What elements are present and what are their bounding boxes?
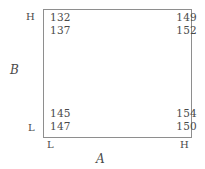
y-axis-tick-low: L [28,122,35,134]
observation-value: 132 [50,11,71,24]
observation-value: 152 [176,24,197,37]
y-axis-tick-high: H [26,11,35,23]
observation-value: 145 [50,107,71,120]
factorial-design-plot: 132 137 149 152 145 147 154 150 H L L H … [0,0,205,169]
y-axis-title: B [10,63,19,77]
observation-value: 149 [176,11,197,24]
corner-values-low-a-high-b: 132 137 [50,11,71,37]
observation-value: 154 [176,107,197,120]
corner-values-low-a-low-b: 145 147 [50,107,71,133]
corner-values-high-a-low-b: 154 150 [176,107,197,133]
observation-value: 150 [176,120,197,133]
x-axis-tick-high: H [180,139,189,151]
x-axis-title: A [96,152,105,166]
corner-values-high-a-high-b: 149 152 [176,11,197,37]
observation-value: 147 [50,120,71,133]
observation-value: 137 [50,24,71,37]
x-axis-tick-low: L [47,139,54,151]
